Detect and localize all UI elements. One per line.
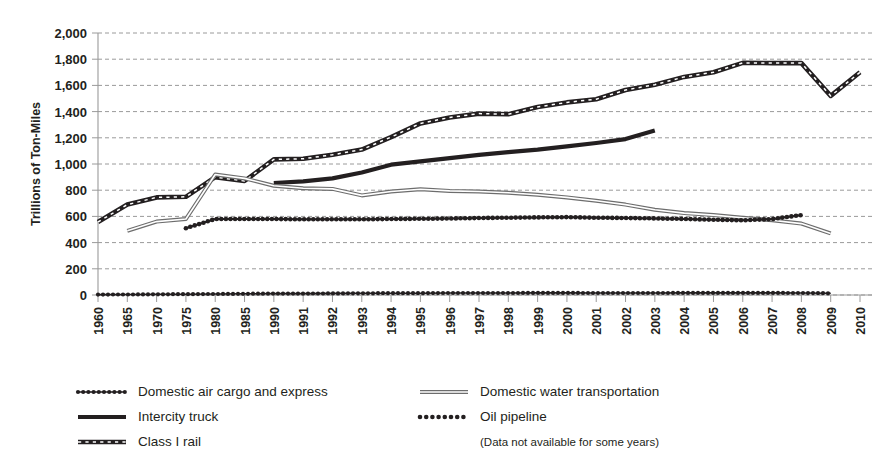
- legend-label: Domestic water transportation: [480, 384, 659, 399]
- series-marker: [197, 222, 202, 227]
- legend-item[interactable]: Oil pipeline: [418, 409, 547, 424]
- series-marker: [96, 293, 100, 297]
- series-marker: [346, 291, 350, 295]
- x-tick-label: 1970: [151, 307, 165, 335]
- series-marker: [651, 216, 656, 221]
- series-marker: [806, 291, 810, 295]
- legend-item[interactable]: Intercity truck: [78, 409, 219, 424]
- series-marker: [621, 291, 625, 295]
- series-marker: [116, 292, 120, 296]
- series-marker: [701, 291, 705, 295]
- series-marker: [546, 291, 550, 295]
- series-marker: [246, 292, 250, 296]
- series-marker: [532, 215, 537, 220]
- series-marker: [446, 291, 450, 295]
- series-marker: [730, 218, 735, 223]
- series-marker: [582, 215, 587, 220]
- series-marker: [196, 292, 200, 296]
- gridlines: [98, 33, 872, 295]
- series-marker: [271, 292, 275, 296]
- series-marker: [566, 291, 570, 295]
- series-marker: [771, 217, 776, 222]
- series-marker: [726, 291, 730, 295]
- series-marker: [686, 291, 690, 295]
- series-marker: [573, 215, 578, 220]
- series-marker: [449, 216, 454, 221]
- series-marker: [385, 217, 390, 222]
- y-tick-label: 1,800: [54, 52, 87, 67]
- series-marker: [184, 226, 189, 231]
- series-marker: [435, 216, 440, 221]
- x-tick-label: 1980: [209, 307, 223, 335]
- series-marker: [329, 217, 334, 222]
- series-marker: [306, 217, 311, 222]
- series-marker: [731, 291, 735, 295]
- legend-item[interactable]: Domestic water transportation: [420, 384, 659, 399]
- series-marker: [186, 292, 190, 296]
- series-marker: [711, 291, 715, 295]
- series-marker: [371, 217, 376, 222]
- series-marker: [458, 216, 463, 221]
- legend-note: (Data not available for some years): [480, 436, 659, 448]
- series-marker: [550, 215, 555, 220]
- series-marker: [192, 223, 197, 228]
- series-marker: [486, 291, 490, 295]
- x-tick-label: 2006: [737, 307, 751, 335]
- series-marker: [636, 291, 640, 295]
- series-marker: [531, 291, 535, 295]
- series-marker: [291, 292, 295, 296]
- series-marker: [440, 216, 445, 221]
- series-marker: [481, 291, 485, 295]
- series-marker: [236, 292, 240, 296]
- series-marker: [201, 220, 206, 225]
- series-marker: [171, 292, 175, 296]
- series-marker: [757, 217, 762, 222]
- y-tick-label: 400: [65, 236, 87, 251]
- x-tick-label: 2000: [561, 307, 575, 335]
- series-marker: [527, 215, 532, 220]
- series-marker: [431, 216, 436, 221]
- series-marker: [509, 215, 514, 220]
- series-marker: [251, 292, 255, 296]
- series-marker: [504, 215, 509, 220]
- series-marker: [791, 291, 795, 295]
- series-marker: [762, 217, 767, 222]
- series-marker: [141, 292, 145, 296]
- series-marker: [697, 217, 702, 222]
- series-marker: [674, 217, 679, 222]
- series-marker: [441, 291, 445, 295]
- series-marker: [631, 291, 635, 295]
- series-marker: [270, 217, 275, 222]
- series-marker: [411, 291, 415, 295]
- legend-item[interactable]: Domestic air cargo and express: [76, 384, 328, 399]
- series-marker: [526, 291, 530, 295]
- legend-item[interactable]: Class I rail: [78, 434, 201, 449]
- series-marker: [444, 216, 449, 221]
- legend-label: Oil pipeline: [480, 409, 547, 424]
- x-tick-label: 1998: [502, 307, 516, 335]
- series-marker: [811, 291, 815, 295]
- series-marker: [647, 216, 652, 221]
- series-marker: [389, 217, 394, 222]
- series-marker: [431, 291, 435, 295]
- series-marker: [516, 291, 520, 295]
- series-marker: [541, 291, 545, 295]
- series-marker: [711, 217, 716, 222]
- series-marker: [426, 216, 431, 221]
- series-marker: [156, 292, 160, 296]
- y-tick-label: 1,600: [54, 78, 87, 93]
- y-tick-label: 1,000: [54, 157, 87, 172]
- series-marker: [641, 291, 645, 295]
- series-marker: [661, 291, 665, 295]
- x-tick-label: 1999: [532, 307, 546, 335]
- series-marker: [766, 291, 770, 295]
- series-marker: [521, 291, 525, 295]
- series-marker: [408, 217, 413, 222]
- x-tick-label: 2004: [678, 307, 692, 335]
- series-marker: [666, 291, 670, 295]
- series-marker: [578, 215, 583, 220]
- series-marker: [406, 291, 410, 295]
- series-class-i-rail: [98, 63, 860, 222]
- series-marker: [166, 292, 170, 296]
- x-tick-label: 1985: [239, 307, 253, 335]
